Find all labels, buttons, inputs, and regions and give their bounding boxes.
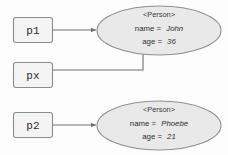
attribute-value: 21 <box>166 132 176 141</box>
variable-box-label: p2 <box>26 120 40 132</box>
object-type-label: <Person> <box>143 10 175 19</box>
variable-box-p1[interactable]: p1 <box>14 18 53 43</box>
attribute-value: John <box>165 24 183 33</box>
object-attribute-name-row: name = John <box>135 24 183 33</box>
connector-px-to-john <box>53 54 143 70</box>
attribute-name: age = <box>142 37 162 46</box>
variable-box-label: p1 <box>26 25 40 37</box>
attribute-value: 36 <box>167 37 176 46</box>
attribute-name: name = <box>135 24 162 33</box>
attribute-name: age = <box>142 132 162 141</box>
variable-box-label: px <box>26 70 40 82</box>
attribute-name: name = <box>130 119 157 128</box>
object-node-person-phoebe[interactable]: <Person> name = Phoebe age = 21 <box>97 101 221 150</box>
diagram-canvas: p1 px p2 <Person> name = John age = 36 <box>0 0 228 155</box>
attribute-value: Phoebe <box>161 119 189 128</box>
object-node-person-john[interactable]: <Person> name = John age = 36 <box>97 6 221 55</box>
object-attribute-age-row: age = 36 <box>142 37 176 46</box>
variable-box-px[interactable]: px <box>14 63 53 88</box>
variable-box-p2[interactable]: p2 <box>14 113 53 138</box>
object-attribute-age-row: age = 21 <box>142 132 176 141</box>
object-reference-diagram: p1 px p2 <Person> name = John age = 36 <box>0 0 228 155</box>
connector-line <box>53 54 143 70</box>
object-type-label: <Person> <box>143 105 175 114</box>
